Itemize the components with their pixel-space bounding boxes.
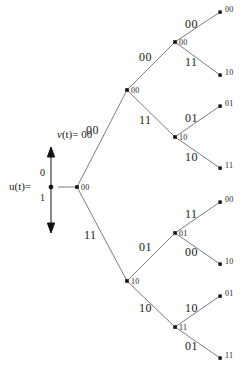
leaf-label-4: 11 xyxy=(225,161,233,170)
edge-label-d-to-leaf7: 10 xyxy=(185,301,198,316)
node-label-d1-upper: 00 xyxy=(131,86,139,95)
node-leaf8 xyxy=(218,356,221,359)
node-label-d2-d: 11 xyxy=(179,323,187,332)
node-d1-lower xyxy=(125,279,129,283)
edge-label-upper-to-a: 00 xyxy=(139,50,152,65)
leaf-label-3: 01 xyxy=(225,99,233,108)
node-label-root: 00 xyxy=(81,183,89,192)
edge-label-root-to-lower: 11 xyxy=(84,228,96,243)
node-d2-a xyxy=(173,40,177,44)
u-axis-center-dot xyxy=(49,185,53,189)
u-axis-label: u(t)= xyxy=(9,180,31,192)
node-label-d2-a: 00 xyxy=(179,38,187,47)
u-axis-arrowhead-down xyxy=(47,223,54,233)
edge-label-root-to-upper: 00 xyxy=(86,123,99,138)
edge-label-lower-to-d: 10 xyxy=(139,301,152,316)
node-leaf5 xyxy=(218,200,221,203)
node-root xyxy=(75,185,79,189)
u-axis-tick-top: 0 xyxy=(40,167,45,178)
edge-label-c-to-leaf6: 00 xyxy=(185,245,198,260)
node-label-d1-lower: 10 xyxy=(131,277,139,286)
node-leaf7 xyxy=(218,294,221,297)
node-leaf3 xyxy=(218,104,221,107)
node-d2-c xyxy=(173,231,177,235)
u-axis-arrow xyxy=(47,147,54,233)
node-d2-b xyxy=(173,135,177,139)
node-leaf4 xyxy=(218,166,221,169)
node-leaf6 xyxy=(218,262,221,265)
node-label-d2-b: 10 xyxy=(179,133,187,142)
edge-label-c-to-leaf5: 11 xyxy=(185,207,197,222)
tree-diagram: u(t)= 0 1 v(t)= 00 00 00 10 00 10 01 11 … xyxy=(0,0,246,375)
leaf-label-7: 01 xyxy=(225,289,233,298)
u-axis-arrowhead-up xyxy=(47,147,54,157)
leaf-label-5: 00 xyxy=(225,195,233,204)
leaf-label-2: 10 xyxy=(225,68,233,77)
edge-label-a-to-leaf2: 11 xyxy=(185,55,197,70)
edge-label-lower-to-c: 01 xyxy=(139,240,152,255)
edge-label-b-to-leaf3: 01 xyxy=(185,111,198,126)
edge-label-b-to-leaf4: 10 xyxy=(185,150,198,165)
edge-label-d-to-leaf8: 01 xyxy=(185,339,198,354)
leaf-label-1: 00 xyxy=(225,5,233,14)
edge-label-a-to-leaf1: 00 xyxy=(185,17,198,32)
node-leaf1 xyxy=(218,10,221,13)
leaf-label-6: 10 xyxy=(225,257,233,266)
u-axis-tick-bottom: 1 xyxy=(40,192,45,203)
u-axis-label-rest: (t)= xyxy=(15,180,32,192)
tree-graphics xyxy=(0,0,246,375)
node-d1-upper xyxy=(125,88,129,92)
node-d2-d xyxy=(173,325,177,329)
edge-label-upper-to-b: 11 xyxy=(139,113,151,128)
leaf-label-8: 11 xyxy=(225,351,233,360)
node-label-d2-c: 01 xyxy=(179,229,187,238)
node-leaf2 xyxy=(218,73,221,76)
